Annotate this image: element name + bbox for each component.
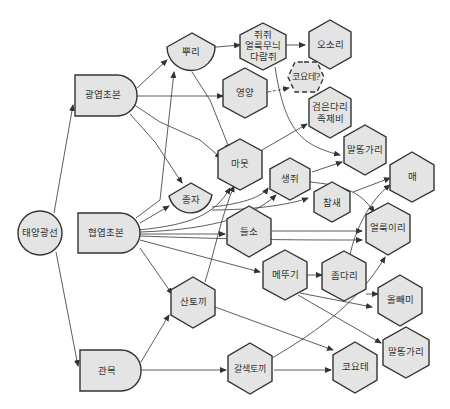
- node-bison-label: 들소: [240, 226, 258, 237]
- edge-hare-coyote: [215, 307, 333, 350]
- edge-sun-broadleaf: [54, 105, 73, 213]
- node-grasshopper-label: 메뚜기: [272, 269, 299, 280]
- node-coyote-question[interactable]: 코요테?: [288, 62, 324, 92]
- node-bison[interactable]: 들소: [227, 206, 271, 257]
- node-mouse-label: 생쥐: [281, 173, 299, 184]
- node-grass[interactable]: 협엽초본: [78, 213, 140, 253]
- node-hawk-1[interactable]: 말똥가리: [344, 125, 386, 175]
- node-root[interactable]: 뿌리: [167, 33, 215, 71]
- node-grass-label: 협엽초본: [88, 227, 124, 238]
- edge-broadleaf-marmot: [133, 104, 221, 158]
- node-shrub[interactable]: 관목: [80, 350, 141, 391]
- node-marmot-label: 마못: [231, 158, 249, 169]
- node-broadleaf[interactable]: 광엽초본: [75, 75, 137, 116]
- node-hare-label: 산토끼: [180, 296, 207, 307]
- node-shrew[interactable]: 좀다리: [322, 251, 366, 301]
- node-badger-label: 오소리: [317, 39, 344, 50]
- edge-seed-mouse: [212, 188, 268, 207]
- node-mouse[interactable]: 생쥐: [270, 158, 310, 200]
- node-coyote-label: 코요테: [342, 361, 369, 372]
- edge-grass-hare: [140, 248, 172, 294]
- node-falcon[interactable]: 매: [390, 152, 434, 202]
- node-spotted-wolf[interactable]: 얼룩이리: [366, 203, 410, 255]
- node-owl[interactable]: 올빼미: [378, 275, 422, 326]
- food-web-diagram: 태양광선 광엽초본 협엽초본 관목 뿌리 종자 쥐쥐 얼룩무늬 다람: [0, 0, 450, 409]
- edge-grass-root: [136, 72, 174, 218]
- node-marmot[interactable]: 마못: [218, 139, 262, 190]
- node-pronghorn[interactable]: 영양: [223, 68, 267, 118]
- node-sun-label: 태양광선: [22, 227, 58, 238]
- edge-mouse-hawk1: [312, 162, 342, 172]
- edge-grasshopper-hawk2: [298, 295, 381, 343]
- node-rodent[interactable]: 쥐쥐 얼룩무늬 다람쥐: [240, 23, 286, 70]
- node-brown-hare[interactable]: 갈색토끼: [228, 343, 272, 394]
- edge-sun-shrub: [56, 252, 78, 366]
- node-falcon-label: 매: [408, 171, 417, 182]
- node-spotted-wolf-label: 얼룩이리: [370, 222, 406, 233]
- node-shrub-label: 관목: [98, 365, 116, 376]
- node-seed-label: 종자: [182, 194, 200, 205]
- node-hare[interactable]: 산토끼: [171, 277, 215, 328]
- node-sparrow[interactable]: 참새: [314, 182, 350, 222]
- node-hawk-2-label: 말똥가리: [388, 346, 424, 357]
- edge-broadleaf-root: [137, 60, 167, 88]
- node-root-label: 뿌리: [182, 46, 200, 57]
- node-rodent-label-1: 쥐쥐: [254, 29, 272, 40]
- node-rodent-label-2: 얼룩무늬: [245, 40, 281, 51]
- node-owl-label: 올빼미: [387, 294, 414, 305]
- edge-marmot-ferret: [262, 124, 307, 150]
- node-coyote-question-label: 코요테?: [292, 72, 321, 82]
- edge-pronghorn-coyote: [268, 88, 289, 92]
- node-sun[interactable]: 태양광선: [18, 211, 62, 255]
- node-ferret-label-1: 검은다리: [312, 101, 348, 112]
- edge-seed-sparrow: [212, 198, 308, 210]
- node-ferret-label-2: 족제비: [317, 113, 344, 124]
- edge-broadleaf-seed: [130, 114, 182, 183]
- node-sparrow-label: 참새: [323, 197, 341, 208]
- node-shrew-label: 좀다리: [331, 270, 358, 281]
- node-ferret[interactable]: 검은다리 족제비: [309, 87, 351, 138]
- node-seed[interactable]: 종자: [169, 183, 212, 213]
- edge-grass-seed: [140, 206, 169, 223]
- node-hawk-2[interactable]: 말똥가리: [383, 327, 429, 378]
- edge-shrub-hare: [141, 315, 169, 362]
- node-broadleaf-label: 광엽초본: [85, 89, 121, 100]
- node-brown-hare-label: 갈색토끼: [234, 364, 266, 374]
- node-pronghorn-label: 영양: [236, 87, 254, 98]
- node-grasshopper[interactable]: 메뚜기: [263, 250, 307, 300]
- node-hawk-1-label: 말똥가리: [347, 144, 383, 155]
- node-coyote[interactable]: 코요테: [333, 342, 377, 393]
- node-rodent-label-3: 다람쥐: [250, 51, 277, 62]
